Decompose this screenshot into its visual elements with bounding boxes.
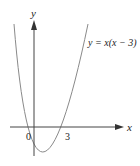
y-axis-arrow-icon (31, 20, 37, 30)
y-axis-label: y (30, 7, 36, 19)
origin-label: 0 (26, 131, 31, 142)
equation-label: y = x(x − 3) (87, 37, 137, 49)
x-axis-label: x (126, 121, 132, 133)
x-tick-label-3: 3 (65, 131, 70, 142)
graph: y x 0 3 y = x(x − 3) (0, 0, 140, 166)
x-axis-arrow-icon (115, 124, 124, 130)
